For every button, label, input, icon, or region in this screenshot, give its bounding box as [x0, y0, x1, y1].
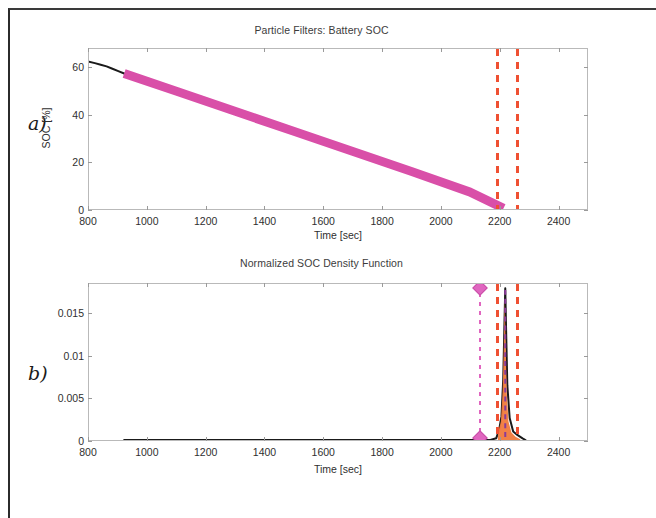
panel-b: b) Normalized SOC Density Function 80010… [0, 256, 643, 491]
x-tick-label: 1200 [194, 215, 217, 227]
y-tick-right [584, 162, 588, 163]
x-tick-label: 1600 [312, 215, 335, 227]
x-tick-label: 2400 [547, 446, 570, 458]
x-tick [500, 437, 501, 441]
x-tick-label: 2200 [488, 215, 511, 227]
vline-eol-lower-bound [496, 49, 499, 209]
y-tick-right [584, 115, 588, 116]
x-tick-label: 2000 [429, 215, 452, 227]
x-tick [206, 206, 207, 210]
y-tick-right [584, 210, 588, 211]
y-tick [88, 356, 92, 357]
panel-a-axes [88, 48, 588, 210]
x-tick [147, 437, 148, 441]
x-tick [382, 437, 383, 441]
x-tick [382, 206, 383, 210]
panel-a-title: Particle Filters: Battery SOC [0, 24, 643, 36]
y-tick [88, 115, 92, 116]
series-measured-soc [89, 62, 124, 74]
y-tick [88, 210, 92, 211]
x-tick-label: 1800 [370, 215, 393, 227]
panel-b-plot-canvas [89, 284, 587, 440]
series-particle-filter-soc-band [124, 73, 503, 208]
y-tick-label: 60 [36, 61, 84, 73]
x-tick [206, 437, 207, 441]
y-tick-right [584, 313, 588, 314]
panel-a-plot-canvas [89, 49, 587, 209]
x-tick-top [382, 283, 383, 287]
x-tick-label: 800 [79, 215, 97, 227]
x-tick [323, 437, 324, 441]
x-tick-top [206, 48, 207, 52]
x-tick [500, 206, 501, 210]
x-tick-top [559, 283, 560, 287]
y-tick-label: 20 [36, 156, 84, 168]
y-tick-right [584, 356, 588, 357]
panel-a-xlabel: Time [sec] [314, 229, 362, 241]
y-tick-right [584, 441, 588, 442]
x-tick-label: 1000 [135, 215, 158, 227]
vline-expected-eol-marker [479, 284, 481, 440]
x-tick-top [500, 48, 501, 52]
x-tick-label: 1800 [370, 446, 393, 458]
x-tick [323, 206, 324, 210]
y-tick-label: 0.015 [36, 307, 84, 319]
x-tick-top [88, 283, 89, 287]
x-tick-top [559, 48, 560, 52]
y-tick-label: 0 [36, 435, 84, 447]
x-tick-top [323, 283, 324, 287]
x-tick-top [500, 283, 501, 287]
y-tick [88, 398, 92, 399]
x-tick-label: 2200 [488, 446, 511, 458]
x-tick [441, 206, 442, 210]
y-tick [88, 67, 92, 68]
y-tick-label: 0.01 [36, 350, 84, 362]
x-tick [559, 437, 560, 441]
vline-eol-lower-bound [496, 284, 499, 440]
panel-a: a) Particle Filters: Battery SOC 8001000… [0, 22, 643, 237]
x-tick-top [264, 283, 265, 287]
x-tick-top [441, 48, 442, 52]
y-tick [88, 162, 92, 163]
y-tick [88, 441, 92, 442]
x-tick-top [441, 283, 442, 287]
x-tick [264, 437, 265, 441]
x-tick-top [88, 48, 89, 52]
x-tick-label: 1400 [253, 446, 276, 458]
x-tick [264, 206, 265, 210]
x-tick-label: 2000 [429, 446, 452, 458]
panel-b-letter: b) [28, 362, 48, 384]
x-tick-label: 1000 [135, 446, 158, 458]
x-tick [559, 206, 560, 210]
panel-b-axes [88, 283, 588, 441]
x-tick-label: 1400 [253, 215, 276, 227]
x-tick-top [323, 48, 324, 52]
x-tick-top [147, 283, 148, 287]
x-tick-label: 1200 [194, 446, 217, 458]
panel-b-title: Normalized SOC Density Function [0, 257, 643, 269]
x-tick-top [206, 283, 207, 287]
x-tick-label: 800 [79, 446, 97, 458]
x-tick [147, 206, 148, 210]
x-tick-top [264, 48, 265, 52]
vline-eol-upper-bound [516, 284, 519, 440]
x-tick-label: 2400 [547, 215, 570, 227]
x-tick [441, 437, 442, 441]
panel-a-ylabel: SOC [%] [40, 98, 52, 158]
y-tick-right [584, 67, 588, 68]
panel-b-xlabel: Time [sec] [314, 463, 362, 475]
x-tick-top [147, 48, 148, 52]
y-tick-label: 0 [36, 204, 84, 216]
y-tick [88, 313, 92, 314]
series-soc-density-function [124, 288, 525, 440]
x-tick-top [382, 48, 383, 52]
y-tick-label: 0.005 [36, 392, 84, 404]
vline-eol-upper-bound [516, 49, 519, 209]
x-tick-label: 1600 [312, 446, 335, 458]
y-tick-right [584, 398, 588, 399]
